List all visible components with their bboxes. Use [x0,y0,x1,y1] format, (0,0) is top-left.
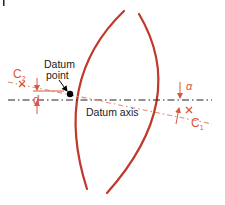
c2-label: C2 [13,67,26,82]
datum-axis-label: Datum axis [86,106,139,118]
datum-point-label-line2: point [46,69,69,81]
alpha-label: α [186,80,193,92]
datum-point-marker [67,91,73,97]
d-label: d [33,93,40,107]
lens-decenter-diagram: Datum point Datum axis C2 d α C1 [0,0,225,205]
c1-cross-icon [186,107,192,113]
edge-artifact [3,0,5,6]
datum-point-pointer [59,80,67,91]
c1-label: C1 [191,116,204,131]
